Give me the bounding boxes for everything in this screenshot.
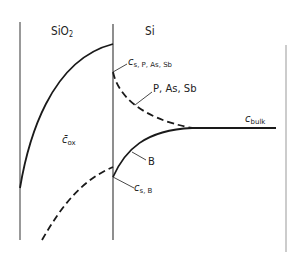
si-region-label: Si	[145, 24, 155, 37]
silicon-ntype-curve	[113, 72, 192, 128]
leader-c-surface-n	[113, 64, 127, 72]
ntype-curve-label: P, As, Sb	[153, 84, 197, 94]
leader-c-surface-b	[113, 177, 134, 188]
leader-boron-curve	[132, 152, 146, 160]
sio2-text: SiO	[51, 23, 69, 38]
c-surface-ntype-label: cs, P, As, Sb	[128, 57, 172, 69]
c-surface-boron-label: cs, B	[134, 183, 152, 195]
c-bulk-label: cbulk	[245, 114, 265, 126]
c-oxide-subscript: ox	[68, 139, 76, 147]
c-bulk-subscript: bulk	[251, 118, 266, 126]
segregation-diagram	[0, 0, 288, 253]
boron-curve-label: B	[148, 157, 155, 167]
sio2-region-label: SiO2	[51, 24, 73, 39]
c-surface-boron-subscript: s, B	[140, 187, 153, 195]
oxide-ntype-curve	[42, 167, 113, 240]
sio2-subscript: 2	[69, 30, 73, 39]
si-text: Si	[145, 23, 155, 38]
c-surface-ntype-subscript: s, P, As, Sb	[134, 61, 173, 69]
silicon-boron-curve	[113, 128, 192, 177]
leader-ntype-curve	[135, 92, 152, 105]
c-oxide-label: c̄ox	[62, 135, 76, 147]
oxide-boron-curve	[20, 44, 113, 188]
